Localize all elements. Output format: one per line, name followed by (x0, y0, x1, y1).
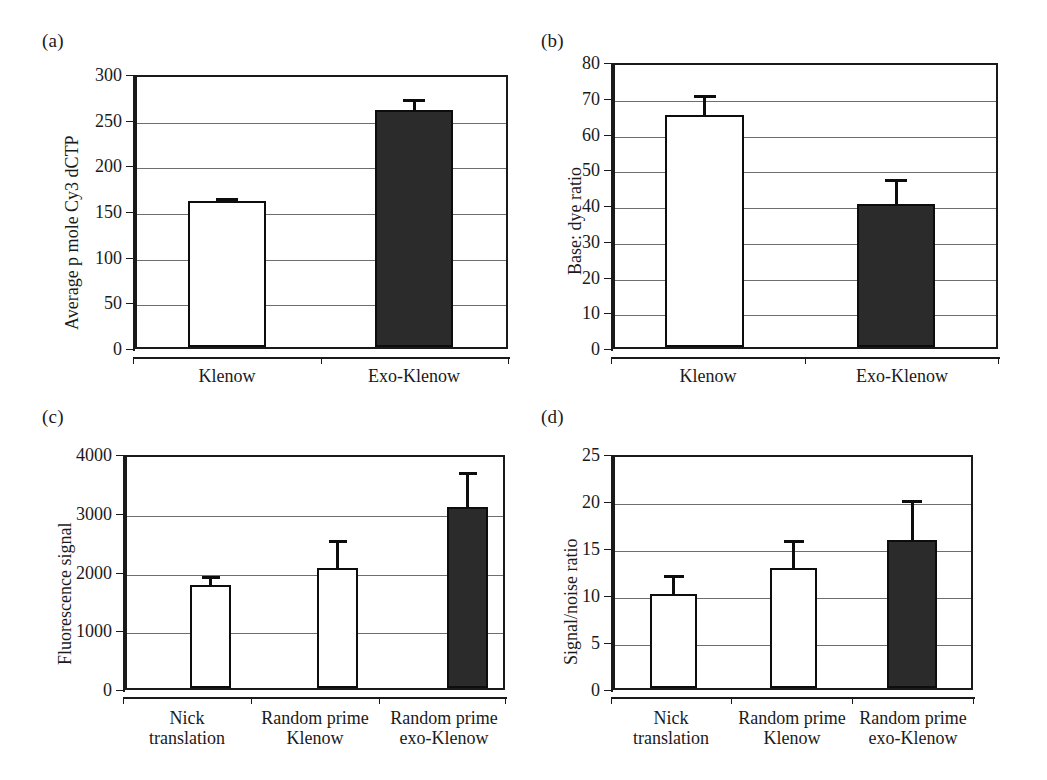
y-tick (116, 690, 123, 691)
y-tick-label: 20 (556, 267, 600, 288)
y-tick (604, 63, 611, 64)
panel-b-y-axis-title: Base: dye ratio (565, 167, 586, 275)
bar-nick-translation (650, 594, 697, 688)
panel-d-x-axis (611, 697, 975, 699)
x-tick (731, 697, 732, 704)
error-bar-random-prime-klenow (317, 540, 358, 568)
error-bar-cap (216, 198, 238, 201)
category-label-exo-klenow: Exo-Klenow (368, 366, 460, 386)
category-label-line1: Random prime (859, 708, 966, 728)
y-tick-label: 70 (556, 88, 600, 109)
panel-d: (d) Signal/noise ratio (523, 400, 1047, 780)
error-bar-stem (911, 500, 914, 540)
panel-b-letter: (b) (541, 30, 564, 52)
error-bar-cap (403, 99, 425, 102)
y-tick (604, 206, 611, 207)
category-label-line2: Klenow (738, 728, 845, 748)
y-tick-label: 20 (556, 492, 600, 513)
category-label-line2: translation (149, 728, 225, 748)
y-tick (604, 549, 611, 550)
bar-random-prime-klenow (770, 568, 817, 688)
panel-d-plot-area (613, 455, 973, 690)
category-label-line1: Nick (653, 708, 688, 728)
y-tick (604, 170, 611, 171)
error-bar-cap (202, 576, 220, 579)
category-label-random-prime-klenow: Random prime Klenow (738, 708, 845, 748)
y-tick (604, 596, 611, 597)
panel-d-y-axis (611, 455, 613, 692)
y-tick-label: 300 (78, 65, 122, 86)
y-tick (604, 643, 611, 644)
x-tick (611, 357, 612, 364)
x-tick (852, 697, 853, 704)
y-tick (126, 75, 133, 76)
panel-c-letter: (c) (42, 406, 64, 428)
bar-exo-klenow (375, 110, 453, 348)
y-tick (604, 690, 611, 691)
y-tick-label: 30 (556, 231, 600, 252)
category-label-random-prime-exo-klenow: Random prime exo-Klenow (859, 708, 966, 748)
y-tick-label: 0 (556, 339, 600, 360)
y-tick-label: 250 (78, 110, 122, 131)
x-tick (321, 357, 322, 364)
category-label-klenow: Klenow (680, 366, 737, 386)
error-bar-cap (902, 500, 922, 503)
error-bar-stem (466, 472, 469, 507)
y-tick (126, 166, 133, 167)
panel-a-plot-area (135, 75, 508, 349)
error-bar-stem (336, 540, 339, 568)
y-tick (604, 502, 611, 503)
y-tick-label: 0 (556, 680, 600, 701)
category-label-exo-klenow: Exo-Klenow (856, 366, 948, 386)
x-tick (123, 697, 124, 704)
x-tick (611, 697, 612, 704)
bar-random-prime-klenow (317, 568, 358, 688)
error-bar-cap (664, 575, 684, 578)
y-tick-label: 5 (556, 633, 600, 654)
y-tick (604, 349, 611, 350)
bar-klenow (188, 201, 266, 347)
y-tick-label: 25 (556, 445, 600, 466)
category-label-line1: Random prime (738, 708, 845, 728)
x-tick (998, 357, 999, 364)
figure-root: (a) Average p mole Cy3 dCTP (0, 0, 1047, 780)
panel-a: (a) Average p mole Cy3 dCTP (0, 0, 523, 400)
error-bar-cap (329, 540, 347, 543)
y-tick (604, 242, 611, 243)
panel-b-y-axis (611, 63, 613, 351)
bar-random-prime-exo-klenow (887, 540, 937, 689)
y-tick-label: 60 (556, 124, 600, 145)
y-tick-label: 1000 (52, 621, 112, 642)
y-tick (604, 455, 611, 456)
x-tick (508, 357, 509, 364)
error-bar-cap (694, 95, 716, 98)
y-tick-label: 0 (78, 339, 122, 360)
panel-a-y-axis (133, 75, 135, 351)
y-tick (126, 349, 133, 350)
category-label-line1: Random prime (390, 708, 497, 728)
y-tick-label: 10 (556, 586, 600, 607)
category-label-random-prime-klenow: Random prime Klenow (261, 708, 368, 748)
x-tick (133, 357, 134, 364)
y-tick-label: 100 (78, 247, 122, 268)
y-tick (116, 514, 123, 515)
y-tick (126, 258, 133, 259)
error-bar-stem (895, 179, 898, 204)
panel-b-plot-area (613, 63, 998, 349)
y-tick-label: 40 (556, 196, 600, 217)
y-tick-label: 3000 (52, 503, 112, 524)
bar-nick-translation (190, 585, 231, 688)
panel-a-letter: (a) (42, 30, 64, 52)
y-tick-label: 50 (78, 293, 122, 314)
bar-klenow (665, 115, 744, 347)
y-tick-label: 150 (78, 202, 122, 223)
error-bar-nick-translation (650, 575, 697, 594)
error-bar-cap (885, 179, 907, 182)
error-bar-stem (792, 540, 795, 568)
y-tick (116, 573, 123, 574)
y-tick (126, 303, 133, 304)
y-tick-label: 80 (556, 53, 600, 74)
y-tick-label: 50 (556, 160, 600, 181)
category-label-line2: exo-Klenow (859, 728, 966, 748)
x-tick (505, 697, 506, 704)
